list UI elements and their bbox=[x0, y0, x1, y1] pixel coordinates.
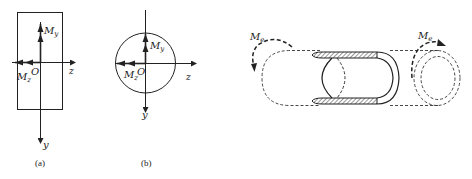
caption-a: (a) bbox=[35, 158, 45, 168]
dashed-end-inner-circle bbox=[421, 57, 455, 100]
tube-end-ring-outer bbox=[377, 52, 399, 104]
right-moment-arc-icon bbox=[412, 42, 440, 78]
label-y-axis: y bbox=[141, 109, 148, 120]
label-right-moment: Me bbox=[417, 30, 432, 43]
label-origin: O bbox=[31, 66, 39, 77]
label-left-moment: Me bbox=[249, 31, 264, 44]
tube-bottom-wall bbox=[312, 98, 377, 104]
my-moment-vector-icon bbox=[38, 24, 44, 62]
label-origin: O bbox=[137, 66, 145, 77]
label-my: My bbox=[43, 25, 59, 38]
tube-inner-arc bbox=[322, 58, 332, 98]
dashed-tube-envelope bbox=[262, 51, 320, 106]
diagram-canvas: My O z Mz y (a) My O z Mz y (b) bbox=[0, 0, 472, 179]
left-moment-arrowhead-icon bbox=[251, 63, 257, 72]
right-moment-arrowhead-icon bbox=[437, 39, 446, 46]
label-z-axis: z bbox=[68, 66, 74, 76]
left-moment-arc-icon bbox=[253, 39, 292, 66]
caption-b: (b) bbox=[141, 158, 152, 168]
my-moment-vector-icon bbox=[143, 34, 149, 63]
label-my: My bbox=[149, 40, 165, 53]
figure-b-circular-section: My O z Mz y (b) bbox=[115, 10, 196, 168]
label-y-axis: y bbox=[42, 139, 49, 150]
mz-moment-vector-icon bbox=[15, 60, 40, 66]
tube-inner-arc-hidden bbox=[337, 58, 345, 98]
label-mz: Mz bbox=[16, 71, 31, 84]
label-mz: Mz bbox=[123, 69, 138, 82]
tube-end-ring-inner bbox=[377, 58, 393, 98]
tube-top-wall bbox=[312, 52, 377, 58]
figure-a-rectangular-section: My O z Mz y (a) bbox=[12, 13, 75, 169]
figure-c-thin-walled-tube: Me Me bbox=[249, 30, 460, 106]
label-z-axis: z bbox=[185, 72, 191, 82]
